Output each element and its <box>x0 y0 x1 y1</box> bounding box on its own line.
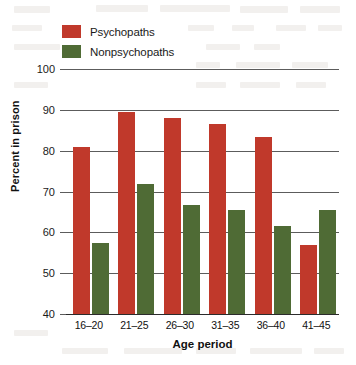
bar-nonpsychopaths-16–20[interactable] <box>92 243 109 314</box>
bars-layer <box>66 69 339 314</box>
y-tick-label-70: 70 <box>43 186 55 198</box>
bar-group <box>164 69 200 314</box>
bar-chart-figure: Psychopaths Nonpsychopaths Percent in pr… <box>0 0 356 365</box>
y-tick-label-80: 80 <box>43 145 55 157</box>
legend-item-nonpsychopaths: Nonpsychopaths <box>62 43 174 60</box>
bar-group <box>73 69 109 314</box>
bar-nonpsychopaths-31–35[interactable] <box>228 210 245 314</box>
bar-nonpsychopaths-21–25[interactable] <box>137 184 154 314</box>
y-tick-label-90: 90 <box>43 104 55 116</box>
y-tick-label-100: 100 <box>37 63 55 75</box>
bar-psychopaths-21–25[interactable] <box>118 112 135 314</box>
bar-psychopaths-41–45[interactable] <box>300 245 317 314</box>
x-tick-label-16–20: 16–20 <box>66 319 112 331</box>
x-tick-label-26–30: 26–30 <box>157 319 203 331</box>
y-tick-label-60: 60 <box>43 226 55 238</box>
bar-nonpsychopaths-41–45[interactable] <box>319 210 336 314</box>
bar-psychopaths-26–30[interactable] <box>164 118 181 314</box>
bar-psychopaths-31–35[interactable] <box>209 124 226 314</box>
bar-nonpsychopaths-26–30[interactable] <box>183 205 200 314</box>
bar-group <box>209 69 245 314</box>
y-tick-40 <box>60 314 66 315</box>
x-tick-label-36–40: 36–40 <box>248 319 294 331</box>
bar-nonpsychopaths-36–40[interactable] <box>274 226 291 314</box>
bar-group <box>300 69 336 314</box>
x-tick-label-41–45: 41–45 <box>294 319 340 331</box>
bar-group <box>118 69 154 314</box>
y-tick-label-50: 50 <box>43 267 55 279</box>
legend-label-nonpsychopaths: Nonpsychopaths <box>90 46 174 58</box>
x-tick-label-21–25: 21–25 <box>112 319 158 331</box>
bar-psychopaths-16–20[interactable] <box>73 147 90 314</box>
bar-psychopaths-36–40[interactable] <box>255 137 272 314</box>
x-axis-title: Age period <box>66 338 339 350</box>
legend-label-psychopaths: Psychopaths <box>90 26 155 38</box>
y-tick-label-40: 40 <box>43 308 55 320</box>
bar-group <box>255 69 291 314</box>
plot-area: 405060708090100 <box>66 69 339 314</box>
legend-item-psychopaths: Psychopaths <box>62 23 174 40</box>
gridline-40 <box>66 314 339 315</box>
x-tick-label-31–35: 31–35 <box>203 319 249 331</box>
legend-swatch-nonpsychopaths <box>62 45 81 58</box>
y-axis-title: Percent in prison <box>9 100 21 192</box>
legend-swatch-psychopaths <box>62 25 81 38</box>
chart-legend: Psychopaths Nonpsychopaths <box>62 23 174 63</box>
